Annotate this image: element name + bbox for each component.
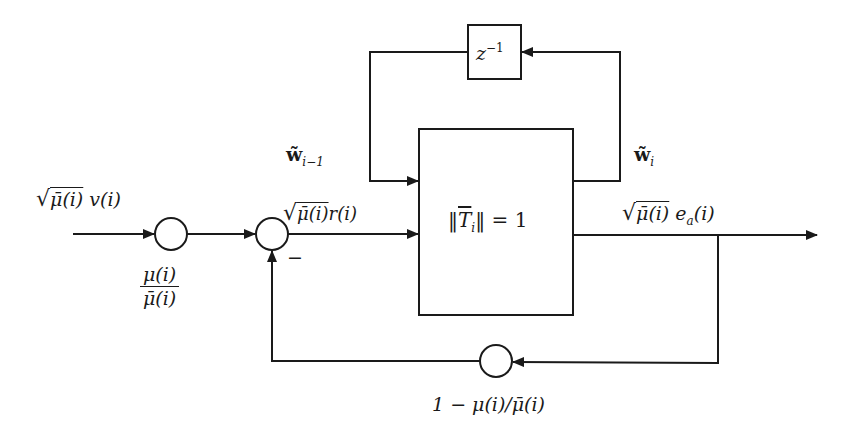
output-signal-label: √μ̄(i) ea(i) (622, 202, 715, 224)
error-signal-label: √μ̄(i)r(i) (283, 202, 357, 224)
input-signal-label: √μ̄(i) v(i) (36, 188, 121, 210)
summer-sign-label: − (287, 248, 303, 267)
weight-current-label: w̃i (634, 145, 654, 164)
weight-previous-label: w̃i−1 (286, 145, 324, 164)
feedback-gain-node (480, 345, 512, 377)
block-diagram (0, 0, 843, 440)
delay-block-label: z−1 (476, 44, 504, 63)
input-gain-node (155, 218, 187, 250)
weight-current-line (522, 52, 620, 181)
feedback-return-line (272, 251, 480, 361)
input-gain-label: μ(i) μ̄(i) (140, 265, 179, 308)
feedback-gain-label: 1 − μ(i)/μ̄(i) (432, 395, 545, 414)
feedback-branch-line (513, 235, 718, 363)
main-block-label: ‖Ti‖ = 1 (448, 210, 527, 230)
